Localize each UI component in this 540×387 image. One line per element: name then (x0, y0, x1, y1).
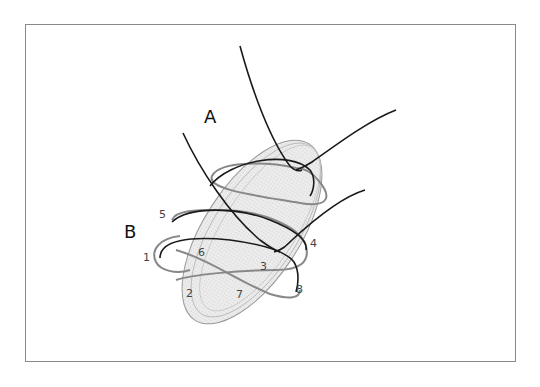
label-a: A (204, 106, 217, 127)
point-label-2: 2 (186, 287, 193, 300)
point-label-1: 1 (143, 251, 150, 264)
point-label-5: 5 (159, 208, 166, 221)
point-label-8: 8 (296, 283, 303, 296)
suture-diagram: A B 1 2 3 4 5 6 7 8 (0, 0, 540, 387)
point-label-7: 7 (236, 288, 243, 301)
point-label-3: 3 (260, 260, 267, 273)
label-b: B (124, 221, 136, 242)
point-label-4: 4 (310, 237, 317, 250)
point-label-6: 6 (198, 246, 205, 259)
